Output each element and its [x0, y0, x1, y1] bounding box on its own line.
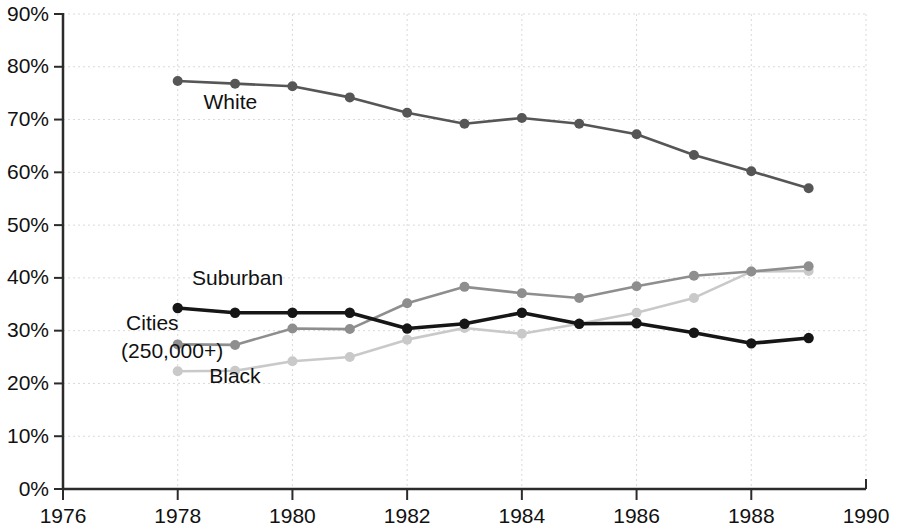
series-line: [178, 308, 809, 343]
data-point: [746, 166, 756, 176]
y-tick-label: 60%: [7, 160, 49, 183]
data-point: [287, 308, 297, 318]
chart-canvas: 0%10%20%30%40%50%60%70%80%90% 1976197819…: [0, 0, 900, 529]
data-point: [574, 319, 584, 329]
data-point: [402, 323, 412, 333]
x-tick-label: 1986: [613, 504, 660, 527]
y-axis-tick-labels: 0%10%20%30%40%50%60%70%80%90%: [7, 2, 49, 500]
data-point: [345, 352, 355, 362]
data-point: [517, 113, 527, 123]
x-tick-label: 1984: [498, 504, 545, 527]
data-point: [230, 340, 240, 350]
y-tick-label: 70%: [7, 107, 49, 130]
x-axis-ticks: [63, 489, 751, 500]
data-point: [631, 318, 641, 328]
x-tick-label: 1982: [384, 504, 431, 527]
y-tick-label: 80%: [7, 54, 49, 77]
data-point: [287, 324, 297, 334]
series-label-cities-detail: (250,000+): [121, 339, 223, 362]
data-point: [345, 308, 355, 318]
data-series: [173, 76, 814, 376]
data-point: [746, 338, 756, 348]
gridlines: [63, 14, 866, 436]
data-point: [517, 288, 527, 298]
data-point: [173, 76, 183, 86]
series-label-black: Black: [209, 364, 261, 387]
data-point: [287, 356, 297, 366]
x-tick-label: 1976: [40, 504, 87, 527]
data-point: [632, 308, 642, 318]
y-tick-label: 50%: [7, 213, 49, 236]
data-point: [689, 271, 699, 281]
data-point: [517, 308, 527, 318]
data-point: [345, 324, 355, 334]
data-point: [689, 328, 699, 338]
data-point: [402, 335, 412, 345]
data-point: [402, 108, 412, 118]
data-point: [746, 267, 756, 277]
data-point: [460, 119, 470, 129]
data-point: [287, 81, 297, 91]
data-point: [459, 319, 469, 329]
data-point: [230, 308, 240, 318]
axes: [63, 13, 866, 489]
data-point: [402, 298, 412, 308]
data-point: [803, 333, 813, 343]
data-point: [574, 119, 584, 129]
x-tick-label: 1980: [269, 504, 316, 527]
data-point: [632, 129, 642, 139]
data-point: [230, 79, 240, 89]
line-chart: 0%10%20%30%40%50%60%70%80%90% 1976197819…: [0, 0, 900, 529]
data-point: [632, 281, 642, 291]
series-label-suburban: Suburban: [192, 266, 283, 289]
y-tick-label: 0%: [19, 477, 49, 500]
y-tick-label: 10%: [7, 424, 49, 447]
x-tick-label: 1978: [154, 504, 201, 527]
y-tick-label: 40%: [7, 265, 49, 288]
y-tick-label: 30%: [7, 318, 49, 341]
x-tick-label: 1988: [728, 504, 775, 527]
y-axis-ticks: [54, 14, 63, 489]
data-point: [460, 282, 470, 292]
data-point: [689, 150, 699, 160]
x-tick-label: 1990: [843, 504, 890, 527]
data-point: [804, 183, 814, 193]
data-point: [574, 293, 584, 303]
series-label-cities: Cities: [126, 311, 179, 334]
data-point: [345, 92, 355, 102]
y-tick-label: 20%: [7, 371, 49, 394]
data-point: [804, 261, 814, 271]
data-point: [689, 293, 699, 303]
series-cities-250-000: [173, 303, 814, 349]
x-axis-tick-labels: 19761978198019821984198619881990: [40, 504, 890, 527]
series-labels: WhiteSuburbanCities(250,000+)Black: [121, 90, 283, 387]
series-label-white: White: [204, 90, 258, 113]
y-tick-label: 90%: [7, 2, 49, 25]
data-point: [517, 329, 527, 339]
data-point: [173, 366, 183, 376]
series-white: [173, 76, 814, 193]
